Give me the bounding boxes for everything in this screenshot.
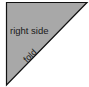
triangle-shape — [7, 3, 88, 86]
right-side-label: right side — [10, 25, 49, 36]
folded-triangle-diagram: right side fold — [0, 0, 89, 87]
